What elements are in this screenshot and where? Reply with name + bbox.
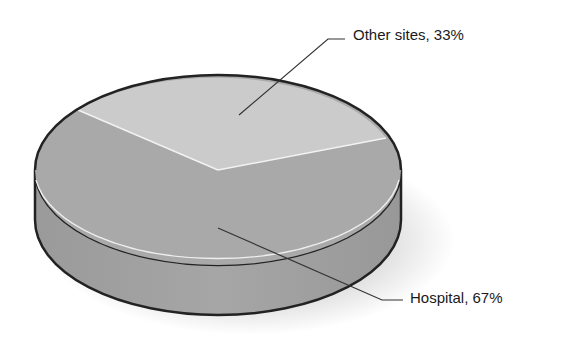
label-hospital: Hospital, 67% — [410, 289, 503, 306]
label-other-sites: Other sites, 33% — [353, 26, 464, 43]
